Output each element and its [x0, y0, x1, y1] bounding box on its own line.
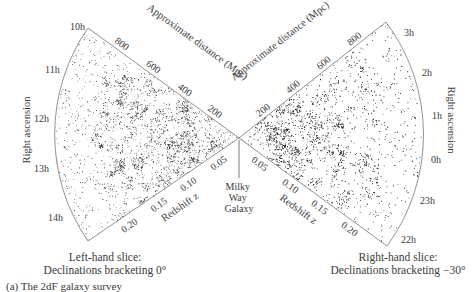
- right-slice-caption-line2: Declinations bracketing −30°: [318, 264, 476, 277]
- right-slice-galaxy-distribution: [242, 25, 428, 249]
- left-ra-ticks: 10h 11h 12h 13h 14h: [34, 21, 85, 223]
- svg-text:0.20: 0.20: [119, 216, 140, 235]
- right-distance-axis: Approximate distance (Mpc) 200 400 600 8…: [226, 0, 363, 119]
- milky-way-label: Milky Way Galaxy: [225, 181, 254, 214]
- svg-text:400: 400: [283, 78, 302, 96]
- svg-text:600: 600: [314, 54, 333, 72]
- svg-text:12h: 12h: [34, 113, 49, 124]
- svg-text:200: 200: [206, 103, 225, 121]
- svg-text:800: 800: [345, 30, 364, 48]
- svg-text:10h: 10h: [70, 21, 85, 32]
- svg-text:Approximate distance (Mpc): Approximate distance (Mpc): [229, 0, 332, 83]
- svg-text:22h: 22h: [401, 234, 416, 245]
- svg-text:0h: 0h: [431, 154, 441, 165]
- svg-text:Redshift z: Redshift z: [159, 190, 201, 224]
- svg-text:0.05: 0.05: [208, 153, 229, 172]
- svg-text:200: 200: [253, 101, 272, 119]
- figure-caption: (a) The 2dF galaxy survey: [6, 280, 122, 292]
- right-slice-caption-line1: Right-hand slice:: [318, 251, 476, 264]
- left-slice-caption-line1: Left-hand slice:: [30, 251, 180, 264]
- left-slice-caption-line2: Declinations bracketing 0°: [30, 264, 180, 277]
- svg-text:600: 600: [144, 58, 163, 76]
- left-slice-caption: Left-hand slice: Declinations bracketing…: [30, 251, 180, 277]
- svg-text:400: 400: [176, 81, 195, 99]
- right-ra-axis-title: Right ascension: [446, 87, 457, 155]
- svg-text:14h: 14h: [48, 212, 63, 223]
- left-redshift-axis: 0.05 0.10 0.15 0.20 Redshift z: [119, 153, 237, 246]
- svg-text:1h: 1h: [432, 110, 442, 121]
- svg-text:3h: 3h: [404, 27, 414, 38]
- left-ra-axis-title: Right ascension: [21, 96, 32, 164]
- galaxy-survey-diagram: Milky Way Galaxy Approximate distance (M…: [0, 0, 476, 292]
- svg-text:13h: 13h: [34, 163, 49, 174]
- svg-text:23h: 23h: [420, 195, 435, 206]
- svg-text:2h: 2h: [422, 67, 432, 78]
- svg-text:800: 800: [113, 35, 132, 53]
- svg-text:11h: 11h: [45, 64, 60, 75]
- svg-text:0.20: 0.20: [339, 219, 360, 238]
- right-slice-caption: Right-hand slice: Declinations bracketin…: [318, 251, 476, 277]
